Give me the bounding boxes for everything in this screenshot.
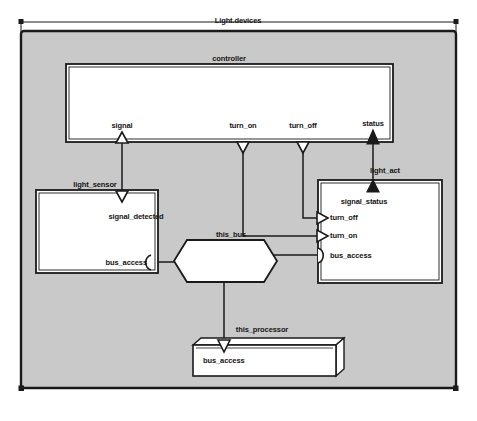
diagram-canvas: Light.devices controller signal turn_on … <box>0 0 477 421</box>
port-label-signal-status: signal_status <box>341 198 388 206</box>
port-light-act-bus-access[interactable] <box>318 248 323 263</box>
frame-title: Light.devices <box>215 17 262 25</box>
block-label-this-processor: this_processor <box>236 326 288 334</box>
block-label-this-bus: this_bus <box>216 231 246 239</box>
port-label-controller-turn-on: turn_on <box>229 122 256 130</box>
port-label-controller-turn-off: turn_off <box>289 122 317 130</box>
port-label-controller-signal: signal <box>111 122 132 130</box>
port-label-light-act-turn-on: turn_on <box>330 232 357 240</box>
port-label-light-act-turn-off: turn_off <box>330 214 358 222</box>
block-label-light-act: light_act <box>370 167 400 175</box>
port-label-light-sensor-bus-access: bus_access <box>105 259 147 267</box>
port-label-this-processor-bus-access: bus_access <box>203 357 245 365</box>
block-this-bus[interactable] <box>174 240 277 282</box>
block-label-light-sensor: light_sensor <box>73 181 116 189</box>
port-label-signal-detected: signal_detected <box>108 213 163 221</box>
port-label-light-act-bus-access: bus_access <box>330 252 372 260</box>
block-controller[interactable] <box>66 64 393 142</box>
block-label-controller: controller <box>212 55 246 63</box>
port-label-controller-status: status <box>362 120 384 128</box>
